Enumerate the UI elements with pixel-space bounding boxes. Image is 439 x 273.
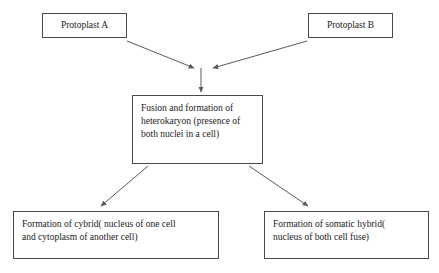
arrow-fusion-to-cybrid bbox=[101, 166, 148, 206]
node-formation-of-cybrid: Formation of cybrid( nucleus of one cell… bbox=[13, 211, 219, 259]
node-protoplast-a-label: Protoplast A bbox=[61, 19, 108, 32]
arrow-protoplast-b-to-junction bbox=[213, 41, 307, 68]
node-protoplast-b: Protoplast B bbox=[308, 13, 393, 38]
node-formation-of-cybrid-label: Formation of cybrid( nucleus of one cell… bbox=[22, 218, 211, 244]
arrow-protoplast-a-to-junction bbox=[127, 41, 194, 68]
node-fusion-heterokaryon: Fusion and formation of heterokaryon (pr… bbox=[132, 95, 263, 164]
flowchart-diagram: Protoplast A Protoplast B Fusion and for… bbox=[0, 0, 439, 273]
node-protoplast-a: Protoplast A bbox=[42, 13, 127, 38]
arrow-fusion-to-somatic bbox=[249, 166, 308, 206]
node-formation-of-somatic-hybrid: Formation of somatic hybrid( nucleus of … bbox=[264, 211, 429, 259]
node-formation-of-somatic-hybrid-label: Formation of somatic hybrid( nucleus of … bbox=[273, 218, 421, 244]
node-fusion-heterokaryon-label: Fusion and formation of heterokaryon (pr… bbox=[141, 102, 255, 141]
node-protoplast-b-label: Protoplast B bbox=[327, 19, 374, 32]
